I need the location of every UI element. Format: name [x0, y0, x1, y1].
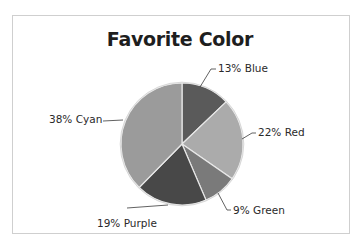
leader-line-blue	[200, 69, 216, 87]
data-label-blue: 13% Blue	[218, 62, 268, 74]
leader-line-green	[218, 193, 231, 210]
data-label-red: 22% Red	[258, 126, 305, 138]
pie-chart: 13% Blue22% Red9% Green19% Purple38% Cya…	[0, 0, 360, 246]
leader-line-purple	[127, 205, 168, 208]
leader-line-red	[242, 133, 256, 139]
data-label-purple: 19% Purple	[97, 217, 157, 229]
data-label-cyan: 38% Cyan	[49, 113, 102, 125]
pie-slices	[120, 82, 244, 206]
leader-line-cyan	[103, 120, 123, 121]
data-label-green: 9% Green	[233, 204, 285, 216]
